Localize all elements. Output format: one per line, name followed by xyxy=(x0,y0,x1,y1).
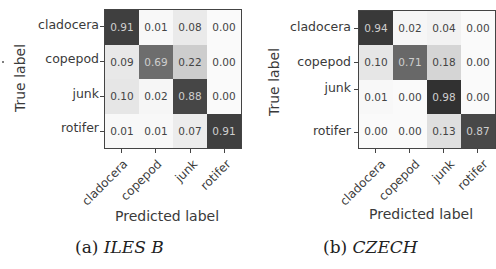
matrix-cell: 0.00 xyxy=(207,79,241,114)
matrix-cell: 0.94 xyxy=(359,11,393,45)
matrix-cell: 0.00 xyxy=(461,11,495,45)
matrix-cell: 0.04 xyxy=(427,11,461,45)
matrix-cell: 0.91 xyxy=(105,10,139,45)
matrix-cell: 0.18 xyxy=(427,45,461,79)
matrix-cell: 0.02 xyxy=(393,11,427,45)
x-axis-label: Predicted label xyxy=(115,208,219,224)
matrix-cell: 0.10 xyxy=(359,45,393,79)
caption: (a) ILES B xyxy=(75,237,164,257)
panel-czech: True label cladocera copepod junk rotife… xyxy=(250,0,492,269)
x-axis-label: Predicted label xyxy=(369,206,473,222)
matrix-cell: 0.01 xyxy=(105,114,139,149)
matrix-cell: 0.00 xyxy=(393,114,427,148)
row-label: junk xyxy=(19,87,99,101)
matrix-cell: 0.01 xyxy=(139,114,173,149)
matrix-cell: 0.01 xyxy=(359,80,393,114)
x-tick xyxy=(375,149,376,153)
x-tick xyxy=(121,149,122,153)
x-tick xyxy=(224,149,225,153)
matrix-cell: 0.01 xyxy=(139,10,173,45)
matrix-cell: 0.00 xyxy=(393,80,427,114)
matrix-cell: 0.91 xyxy=(207,114,241,149)
row-label: rotifer xyxy=(19,121,99,135)
caption-prefix: (a) xyxy=(75,237,98,257)
matrix-cell: 0.87 xyxy=(461,114,495,148)
matrix-cell: 0.13 xyxy=(427,114,461,148)
row-label: rotifer xyxy=(271,124,351,138)
caption: (b) CZECH xyxy=(323,237,418,257)
matrix-cell: 0.69 xyxy=(139,45,173,80)
x-tick xyxy=(477,149,478,153)
col-label: cladocera xyxy=(338,157,389,208)
x-tick xyxy=(155,149,156,153)
matrix-cell: 0.88 xyxy=(173,79,207,114)
col-label: rotifer xyxy=(198,157,234,193)
matrix-cell: 0.22 xyxy=(173,45,207,80)
caption-prefix: (b) xyxy=(323,237,347,257)
matrix-cell: 0.71 xyxy=(393,45,427,79)
x-tick xyxy=(409,149,410,153)
matrix-cell: 0.00 xyxy=(207,10,241,45)
x-tick xyxy=(443,149,444,153)
col-label: rotifer xyxy=(455,157,491,193)
matrix-cell: 0.00 xyxy=(461,45,495,79)
x-tick xyxy=(190,149,191,153)
matrix-cell: 0.09 xyxy=(105,45,139,80)
row-label: cladocera xyxy=(19,18,99,32)
matrix-cell: 0.98 xyxy=(427,80,461,114)
matrix-cell: 0.00 xyxy=(461,80,495,114)
matrix-cell: 0.07 xyxy=(173,114,207,149)
col-label: cladocera xyxy=(80,157,131,208)
matrix-cell: 0.02 xyxy=(139,79,173,114)
matrix-cell: 0.00 xyxy=(207,45,241,80)
caption-name: ILES B xyxy=(104,237,164,257)
matrix-cell: 0.00 xyxy=(359,114,393,148)
row-label: copepod xyxy=(271,55,351,69)
matrix-cell: 0.10 xyxy=(105,79,139,114)
row-label: copepod xyxy=(19,52,99,66)
row-label: cladocera xyxy=(271,20,351,34)
row-label: junk xyxy=(271,81,351,95)
matrix-cell: 0.08 xyxy=(173,10,207,45)
confusion-matrix: 0.940.020.040.000.100.710.180.000.010.00… xyxy=(358,10,496,149)
caption-name: CZECH xyxy=(353,237,418,257)
stray-mark xyxy=(2,61,4,63)
col-label: junk xyxy=(429,157,457,185)
col-label: junk xyxy=(172,157,200,185)
panel-iles-b: True label cladocera copepod junk rotife… xyxy=(0,0,250,269)
confusion-matrix: 0.910.010.080.000.090.690.220.000.100.02… xyxy=(104,9,242,149)
